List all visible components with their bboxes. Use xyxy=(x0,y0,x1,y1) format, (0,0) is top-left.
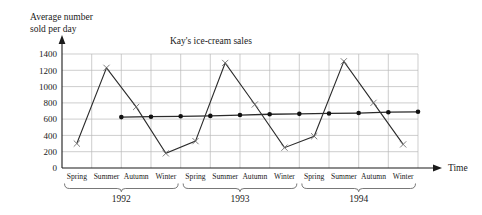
x-tick-summer-1: Summer xyxy=(94,172,120,181)
y-tick-0: 0 xyxy=(53,163,58,173)
x-tick-summer-5: Summer xyxy=(212,172,238,181)
year-label-1992: 1992 xyxy=(112,194,131,204)
x-tick-spring-4: Spring xyxy=(185,172,205,181)
x-tick-autumn-6: Autumn xyxy=(242,172,267,181)
y-tick-200: 200 xyxy=(44,147,58,157)
data-point-trend xyxy=(178,114,183,119)
data-point-trend xyxy=(356,111,361,116)
y-tick-1200: 1200 xyxy=(39,66,58,76)
data-point-trend xyxy=(238,113,243,118)
y-axis-label-line1: Average number xyxy=(30,12,94,22)
data-point-trend xyxy=(386,110,391,115)
data-point-trend xyxy=(327,111,332,116)
y-tick-600: 600 xyxy=(44,114,58,124)
y-tick-400: 400 xyxy=(44,131,58,141)
y-axis xyxy=(59,35,66,168)
y-axis-label-line2: sold per day xyxy=(30,24,77,34)
year-group-labels: 199219931994 xyxy=(112,194,369,204)
chart-title: Kay's ice-cream sales xyxy=(170,36,252,46)
y-axis-tick-labels: 0 200 400 600 800 1000 1200 1400 xyxy=(39,49,58,173)
x-tick-autumn-10: Autumn xyxy=(361,172,386,181)
chart-container: Average number sold per day Kay's ice-cr… xyxy=(0,0,482,215)
x-tick-winter-7: Winter xyxy=(274,172,295,181)
year-label-1994: 1994 xyxy=(349,194,368,204)
year-label-1993: 1993 xyxy=(231,194,250,204)
x-tick-winter-11: Winter xyxy=(393,172,414,181)
data-point-trend xyxy=(119,115,124,120)
y-tick-1000: 1000 xyxy=(39,82,58,92)
x-tick-autumn-2: Autumn xyxy=(124,172,149,181)
data-point-trend xyxy=(297,112,302,117)
ice-cream-sales-line-chart: Average number sold per day Kay's ice-cr… xyxy=(0,0,482,215)
data-point-trend xyxy=(149,114,154,119)
y-tick-800: 800 xyxy=(44,98,58,108)
year-brace-1994 xyxy=(302,184,416,192)
x-tick-spring-0: Spring xyxy=(67,172,87,181)
year-brace-1992 xyxy=(65,184,179,192)
vertical-gridlines xyxy=(92,54,418,168)
x-axis-label: Time xyxy=(448,163,468,173)
x-tick-summer-9: Summer xyxy=(331,172,357,181)
year-group-braces xyxy=(65,184,416,192)
data-point-trend xyxy=(208,114,213,119)
data-point-trend xyxy=(416,110,421,115)
y-tick-1400: 1400 xyxy=(39,49,58,59)
year-brace-1993 xyxy=(183,184,297,192)
x-tick-spring-8: Spring xyxy=(304,172,324,181)
x-axis-tick-labels: SpringSummerAutumnWinterSpringSummerAutu… xyxy=(67,172,414,181)
data-point-trend xyxy=(267,112,272,117)
x-tick-winter-3: Winter xyxy=(155,172,176,181)
